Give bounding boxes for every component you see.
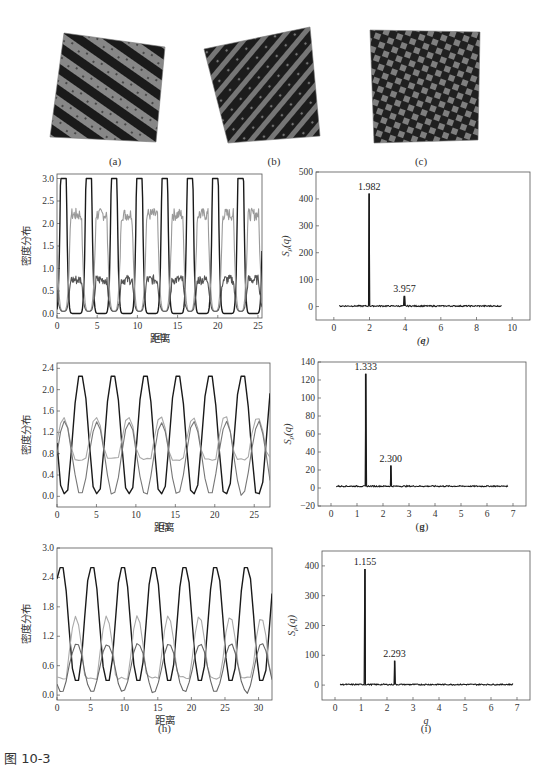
y-tick-label: 60 (306, 429, 316, 439)
y-tick-label: 400 (305, 561, 320, 571)
series-black (57, 179, 262, 314)
x-tick-label: 20 (210, 510, 220, 520)
series-dark-gray (57, 644, 272, 694)
peak-annotation: 1.155 (354, 556, 377, 567)
x-tick-label: 5 (88, 703, 93, 713)
y-tick-label: 300 (299, 221, 314, 231)
chart-f: 05101520250.00.40.81.21.62.02.4距离密度分布(f) (20, 363, 270, 533)
x-tick-label: 1 (359, 703, 364, 713)
x-tick-label: 10 (119, 703, 129, 713)
y-tick-label: 3.0 (42, 543, 54, 553)
x-tick-label: 3 (407, 509, 412, 519)
y-tick-label: 120 (301, 375, 316, 385)
x-tick-label: 5 (463, 703, 468, 713)
y-axis-label: Sρ(q) (280, 235, 293, 256)
x-tick-label: 20 (187, 703, 197, 713)
x-tick-label: 6 (485, 509, 490, 519)
y-tick-label: 0 (310, 483, 315, 493)
x-tick-label: 0 (55, 510, 60, 520)
peak-annotation: 3.957 (393, 283, 416, 294)
y-axis-label: Sρ(q) (286, 615, 299, 636)
panel-label: (g) (416, 520, 429, 533)
plot-area (339, 194, 501, 307)
chart-i: 012345670100200300400qSρ(q)(i)1.1552.293 (286, 551, 530, 735)
structure-factor-curve (339, 194, 501, 307)
x-tick-label: 0 (329, 509, 334, 519)
y-tick-label: 200 (305, 621, 320, 631)
x-tick-label: 2 (367, 323, 372, 333)
x-tick-label: 0 (333, 703, 338, 713)
y-tick-label: 0 (308, 302, 313, 312)
y-tick-label: 1.2 (42, 427, 54, 437)
x-tick-label: 5 (94, 510, 99, 520)
figure-caption: 图 10-3 (4, 748, 51, 767)
y-tick-label: 0.0 (42, 309, 54, 319)
panel-label: (f) (158, 520, 169, 533)
y-tick-label: 0.6 (42, 661, 54, 671)
y-tick-label: 200 (299, 248, 314, 258)
y-axis-label: 密度分布 (20, 604, 32, 644)
x-tick-label: 7 (511, 509, 516, 519)
y-axis-label: Sρ(q) (282, 423, 295, 444)
x-tick-label: 7 (515, 703, 520, 713)
x-tick-label: 2 (381, 509, 386, 519)
peak-annotation: 1.333 (354, 361, 377, 372)
y-axis-label: 密度分布 (20, 415, 32, 455)
plot-area (57, 568, 272, 694)
panel-label: (i) (421, 722, 432, 735)
y-tick-label: 2.0 (42, 219, 54, 229)
y-tick-label: 1.5 (42, 241, 54, 251)
x-tick-label: 10 (507, 323, 517, 333)
y-tick-label: 1.6 (42, 406, 54, 416)
y-tick-label: 300 (305, 591, 320, 601)
x-tick-label: 15 (173, 321, 183, 331)
x-tick-label: 0 (55, 321, 60, 331)
x-tick-label: 15 (153, 703, 163, 713)
x-tick-label: 0 (331, 323, 336, 333)
x-tick-label: 2 (385, 703, 390, 713)
x-tick-label: 25 (253, 321, 263, 331)
series-black (57, 376, 270, 493)
x-tick-label: 4 (403, 323, 408, 333)
panel-label: (e) (417, 334, 430, 347)
y-tick-label: 0.4 (42, 470, 54, 480)
plot-area (57, 376, 270, 495)
series-black (57, 568, 272, 681)
y-tick-label: 100 (305, 650, 320, 660)
plot-frame (322, 551, 530, 700)
x-tick-label: 6 (489, 703, 494, 713)
y-tick-label: 0.0 (42, 491, 54, 501)
x-tick-label: 20 (213, 321, 223, 331)
y-tick-label: 3.0 (42, 174, 54, 184)
y-tick-label: −20 (300, 501, 315, 511)
plot-frame (57, 548, 272, 700)
y-tick-label: 500 (299, 167, 314, 177)
y-tick-label: 2.4 (42, 363, 54, 373)
chart-e: 02468100100200300400500qSρ(q)(e)1.9823.9… (280, 167, 530, 347)
y-tick-label: 2.0 (42, 385, 54, 395)
peak-annotation: 2.293 (383, 648, 406, 659)
x-tick-label: 5 (459, 509, 464, 519)
x-tick-label: 3 (411, 703, 416, 713)
structure-factor-curve (336, 374, 508, 487)
x-tick-label: 6 (438, 323, 443, 333)
chart-d: 05101520250.00.51.01.52.02.53.0距离密度分布(d) (20, 174, 263, 345)
y-tick-label: 40 (306, 447, 316, 457)
y-tick-label: 100 (299, 275, 314, 285)
y-tick-label: 2.4 (42, 572, 54, 582)
x-tick-label: 4 (433, 509, 438, 519)
y-tick-label: 1.8 (42, 602, 54, 612)
x-tick-label: 1 (355, 509, 360, 519)
y-tick-label: 0 (314, 680, 319, 690)
series-light-gray (57, 616, 272, 680)
y-tick-label: 2.5 (42, 196, 54, 206)
y-tick-label: 0.5 (42, 286, 54, 296)
y-tick-label: 400 (299, 194, 314, 204)
plot-area (336, 374, 508, 487)
y-tick-label: 80 (306, 411, 316, 421)
x-tick-label: 25 (249, 510, 259, 520)
plot-frame (316, 172, 530, 320)
peak-annotation: 1.982 (358, 181, 381, 192)
x-tick-label: 4 (437, 703, 442, 713)
plot-area (340, 569, 513, 685)
